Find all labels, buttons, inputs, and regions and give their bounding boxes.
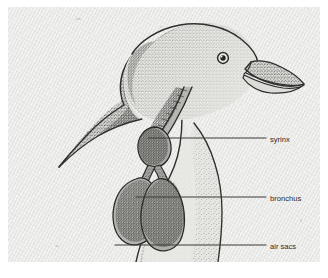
paper-fleck: [76, 18, 81, 20]
figure-screenshot: syrinx bronchus air sacs: [0, 0, 328, 278]
paper-fleck: [55, 245, 59, 247]
paper-fleck: [160, 26, 162, 28]
label-air-sacs: air sacs: [270, 242, 296, 251]
anatomy-illustration: syrinx bronchus air sacs: [8, 7, 320, 262]
label-syrinx: syrinx: [270, 135, 290, 144]
eye: [218, 53, 229, 64]
label-bronchus: bronchus: [270, 194, 301, 203]
paper-plate: syrinx bronchus air sacs: [8, 7, 320, 262]
paper-fleck: [300, 219, 302, 222]
